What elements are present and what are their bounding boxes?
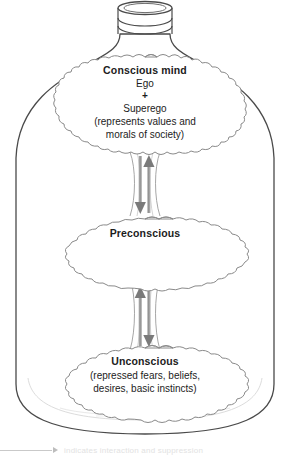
legend-row: indicates interaction and suppression [0, 444, 290, 456]
bottle-neck [118, 2, 172, 35]
figure-canvas: Conscious mind Ego + Superego (represent… [0, 0, 290, 456]
legend-arrow-icon [53, 447, 58, 453]
legend-caption: indicates interaction and suppression [64, 446, 203, 455]
cloud-shape-conscious [54, 55, 247, 155]
mind-bottle-diagram [0, 0, 290, 456]
legend-rule [0, 450, 52, 451]
